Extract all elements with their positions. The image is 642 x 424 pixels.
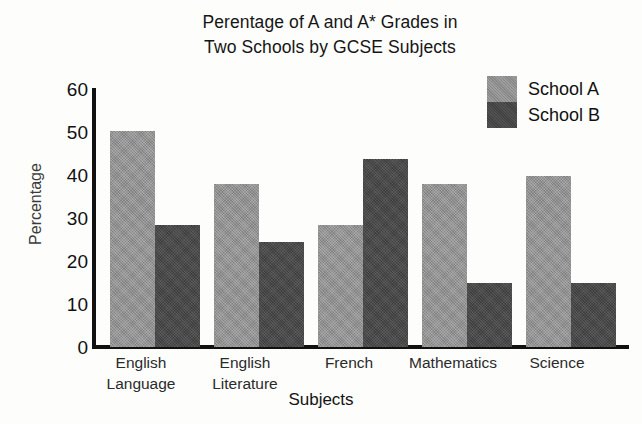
bar-school-a-mathematics[interactable] [422,184,467,347]
chart-title: Perentage of A and A* Grades in Two Scho… [0,10,642,60]
bar-school-a-english-language[interactable] [110,131,155,347]
bar-school-b-mathematics[interactable] [467,283,512,347]
bar-chart-figure: Perentage of A and A* Grades in Two Scho… [0,0,642,424]
x-tick-label-science: Science [491,352,623,373]
bar-school-b-english-literature[interactable] [259,242,304,347]
y-tick-label-30: 30 [46,209,88,228]
legend-item-school-b[interactable]: School B [487,102,600,128]
chart-title-line-2: Two Schools by GCSE Subjects [0,35,642,60]
y-tick-label-10: 10 [46,295,88,314]
bar-school-a-science[interactable] [526,176,571,347]
bar-school-a-english-literature[interactable] [214,184,259,347]
plot-area [96,90,625,347]
legend-swatch-school-a [487,76,517,102]
bar-school-b-english-language[interactable] [155,225,200,347]
bar-school-b-french[interactable] [363,159,408,347]
legend-swatch-school-b [487,102,517,128]
chart-title-line-1: Perentage of A and A* Grades in [0,10,642,35]
legend-label-school-a: School A [528,80,599,98]
y-tick-label-40: 40 [46,166,88,185]
y-tick-label-60: 60 [46,80,88,99]
y-tick-label-50: 50 [46,123,88,142]
legend-label-school-b: School B [528,106,600,124]
y-tick-label-20: 20 [46,252,88,271]
legend-item-school-a[interactable]: School A [487,76,600,102]
chart-legend: School A School B [487,76,600,128]
x-tick-label-line-1: Science [491,352,623,373]
x-axis-title: Subjects [236,390,406,410]
bar-school-a-french[interactable] [318,225,363,347]
bar-school-b-science[interactable] [571,283,616,347]
